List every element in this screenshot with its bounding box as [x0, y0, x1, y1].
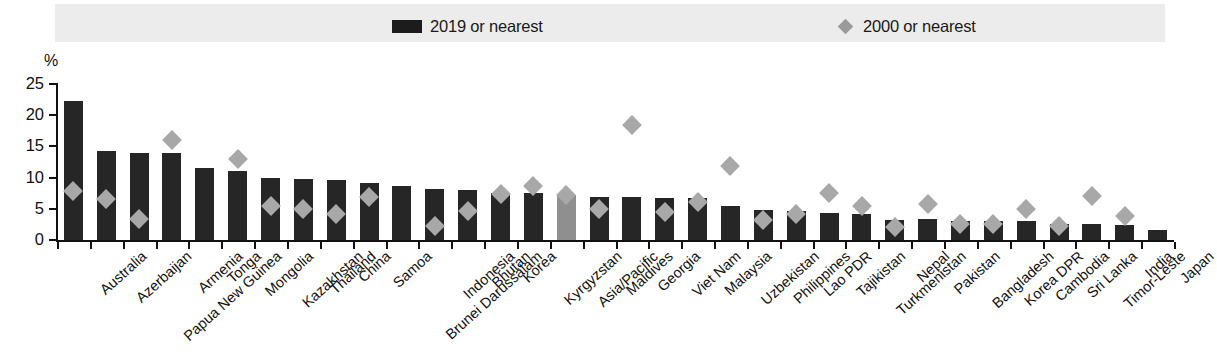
bar — [162, 153, 181, 240]
bar — [1115, 225, 1134, 240]
y-axis-tick — [49, 114, 57, 116]
y-axis-tick-label: 25 — [10, 74, 44, 93]
x-axis-tick — [681, 242, 683, 249]
x-axis-tick — [57, 242, 59, 249]
x-axis-tick — [156, 242, 158, 249]
bar — [721, 206, 740, 240]
x-axis-tick — [845, 242, 847, 249]
x-axis-tick — [550, 242, 552, 249]
x-axis-tick — [484, 242, 486, 249]
diamond-marker — [918, 194, 938, 214]
y-axis-tick-label: 5 — [10, 199, 44, 218]
x-axis-tick — [977, 242, 979, 249]
bar — [1082, 224, 1101, 240]
x-axis-tick — [714, 242, 716, 249]
x-axis-tick — [747, 242, 749, 249]
x-axis-tick — [813, 242, 815, 249]
x-axis-tick — [583, 242, 585, 249]
x-axis-tick — [188, 242, 190, 249]
diamond-marker — [721, 156, 741, 176]
x-axis-tick — [1075, 242, 1077, 249]
x-axis-tick — [418, 242, 420, 249]
x-axis-tick — [254, 242, 256, 249]
diamond-marker — [228, 149, 248, 169]
bar — [622, 197, 641, 240]
y-axis-tick — [49, 208, 57, 210]
x-axis-tick — [1010, 242, 1012, 249]
x-axis-tick — [1108, 242, 1110, 249]
x-axis-tick — [320, 242, 322, 249]
bar — [392, 186, 411, 240]
x-axis-category-label: Samoa — [390, 248, 435, 291]
x-axis-tick — [616, 242, 618, 249]
x-axis-tick — [648, 242, 650, 249]
diamond-marker — [622, 115, 642, 135]
x-axis-tick — [221, 242, 223, 249]
x-axis-tick — [1043, 242, 1045, 249]
y-axis-tick-label: 20 — [10, 105, 44, 124]
diamond-marker — [1082, 186, 1102, 206]
x-axis-tick — [353, 242, 355, 249]
y-axis-tick — [49, 145, 57, 147]
diamond-marker — [162, 130, 182, 150]
x-axis-tick — [386, 242, 388, 249]
bar — [918, 219, 937, 240]
x-axis-tick — [90, 242, 92, 249]
y-axis-tick — [49, 239, 57, 241]
bar — [820, 213, 839, 240]
x-axis-tick — [1174, 242, 1176, 249]
y-axis-tick-label: 0 — [10, 230, 44, 249]
y-axis-tick — [49, 177, 57, 179]
diamond-marker — [1016, 200, 1036, 220]
x-axis-tick — [123, 242, 125, 249]
bar — [64, 101, 83, 240]
x-axis-tick — [780, 242, 782, 249]
bar — [1148, 230, 1167, 240]
bar — [524, 193, 543, 240]
diamond-marker — [819, 183, 839, 203]
y-axis-tick-label: 15 — [10, 136, 44, 155]
bar — [228, 171, 247, 240]
x-axis-tick — [944, 242, 946, 249]
y-axis-tick — [49, 83, 57, 85]
x-axis-tick — [911, 242, 913, 249]
x-axis-tick — [1141, 242, 1143, 249]
x-axis-tick — [451, 242, 453, 249]
x-axis-tick — [878, 242, 880, 249]
x-axis-tick — [287, 242, 289, 249]
x-axis-tick — [517, 242, 519, 249]
bar — [852, 214, 871, 240]
y-axis-tick-label: 10 — [10, 168, 44, 187]
diamond-marker — [1115, 206, 1135, 226]
bar — [1017, 221, 1036, 240]
bar — [195, 168, 214, 240]
